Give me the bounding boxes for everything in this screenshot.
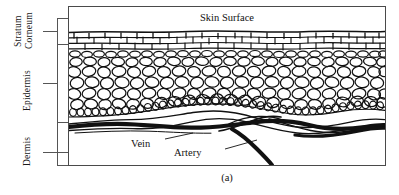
bracket-spine bbox=[57, 18, 58, 166]
bracket-tick-bottom bbox=[57, 165, 68, 166]
layer-label-epidermis: Epidermis bbox=[23, 60, 33, 122]
capillary-left bbox=[75, 131, 211, 133]
skin-histology-drawing bbox=[69, 7, 385, 165]
stratum-corneum-cells bbox=[69, 31, 385, 50]
vein-label: Vein bbox=[131, 138, 150, 149]
layer-label-corneum: Corneum bbox=[25, 7, 35, 55]
skin-cross-section-figure: Stratum Corneum Epidermis Dermis Skin Su… bbox=[0, 0, 399, 195]
bracket-tick-corneum-bottom bbox=[57, 44, 68, 45]
leader-tick-dermis bbox=[43, 152, 57, 153]
bracket-tick-epidermis-bottom bbox=[57, 122, 68, 123]
bracket-tick-top bbox=[57, 18, 68, 19]
figure-caption: (a) bbox=[68, 172, 386, 183]
layer-label-stratum: Stratum bbox=[14, 7, 24, 55]
artery-label: Artery bbox=[174, 147, 201, 158]
granular-layer-cells bbox=[70, 51, 385, 58]
basal-layer-cells bbox=[69, 97, 385, 117]
dermis-blood-vessels bbox=[69, 111, 385, 165]
artery-branch bbox=[232, 129, 272, 165]
skin-diagram-frame: Skin Surface bbox=[68, 6, 386, 166]
bracket-tick-dermis-mid bbox=[57, 152, 68, 153]
leader-tick-epidermis bbox=[43, 83, 57, 84]
layer-label-dermis: Dermis bbox=[23, 128, 33, 174]
leader-tick-stratum-corneum bbox=[43, 31, 57, 32]
